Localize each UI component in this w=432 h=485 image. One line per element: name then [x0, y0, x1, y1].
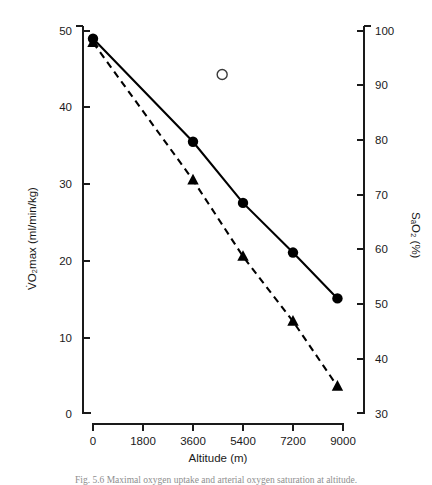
left-tick-label-0: 0 — [66, 408, 72, 420]
right-tick-label-70: 70 — [375, 189, 388, 201]
right-tick-label-40: 40 — [375, 353, 388, 365]
right-axis-title: SₐO₂ (%) — [410, 212, 422, 259]
left-y-axis: 50 40 30 20 10 0 V̇O₂max (ml/min/kg) — [26, 25, 91, 420]
x-tick-label-7200: 7200 — [280, 435, 306, 447]
left-tick-label-10: 10 — [59, 332, 72, 344]
marker-SaO2-1 — [187, 174, 198, 185]
x-tick-label-1800: 1800 — [130, 435, 156, 447]
left-axis-line — [76, 26, 91, 413]
left-axis-title: V̇O₂max (ml/min/kg) — [26, 187, 38, 290]
right-tick-label-60: 60 — [375, 243, 388, 255]
marker-VO2max-3 — [288, 247, 298, 257]
marker-SaO2-4 — [332, 380, 343, 391]
series-line-VO2max — [93, 39, 337, 299]
left-tick-label-50: 50 — [59, 25, 72, 37]
left-tick-label-40: 40 — [59, 101, 72, 113]
marker-VO2max-2 — [238, 198, 248, 208]
right-tick-label-80: 80 — [375, 134, 388, 146]
x-axis-line — [93, 424, 343, 431]
right-tick-label-30: 30 — [375, 408, 388, 420]
figure-caption: Fig. 5.6 Maximal oxygen uptake and arter… — [0, 474, 432, 485]
marker-VO2max-1 — [188, 137, 198, 147]
marker-isolated-point-0 — [217, 70, 227, 80]
x-tick-label-3600: 3600 — [180, 435, 206, 447]
vo2max-altitude-chart: 50 40 30 20 10 0 V̇O₂max (ml/min/kg) 100… — [0, 0, 432, 485]
right-tick-label-50: 50 — [375, 298, 388, 310]
figure-root: 50 40 30 20 10 0 V̇O₂max (ml/min/kg) 100… — [0, 0, 432, 485]
right-axis-line — [357, 26, 371, 413]
x-tick-label-0: 0 — [90, 435, 96, 447]
x-axis: 0 1800 3600 5400 7200 9000 Altitude (m) — [90, 424, 356, 464]
x-axis-title: Altitude (m) — [189, 452, 248, 464]
left-tick-label-30: 30 — [59, 178, 72, 190]
series-layer — [87, 33, 343, 390]
left-tick-label-20: 20 — [59, 255, 72, 267]
series-line-SaO2 — [93, 43, 337, 387]
right-tick-label-90: 90 — [375, 79, 388, 91]
x-tick-label-9000: 9000 — [330, 435, 356, 447]
right-y-axis: 100 90 80 70 60 50 40 30 SₐO₂ (%) — [357, 25, 422, 420]
marker-VO2max-4 — [332, 293, 342, 303]
right-tick-label-100: 100 — [375, 25, 394, 37]
x-tick-label-5400: 5400 — [230, 435, 256, 447]
